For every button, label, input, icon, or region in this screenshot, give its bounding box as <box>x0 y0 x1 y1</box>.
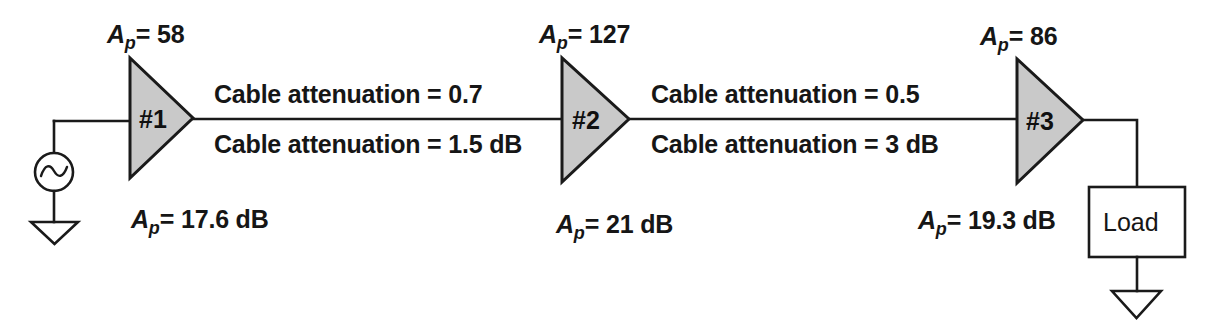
load-label: Load <box>1103 210 1159 235</box>
amp2-gain-linear-label: Ap= 127 <box>539 22 630 52</box>
amp1-gain-linear-label: Ap= 58 <box>107 22 184 52</box>
ground-icon-load <box>1112 291 1161 318</box>
amplifier-label-1: #1 <box>139 107 167 132</box>
amp2-gain-linear-subscript: p <box>557 33 568 53</box>
amplifier-label-3: #3 <box>1026 109 1054 134</box>
wire-amp3-to-load <box>1083 120 1137 187</box>
amplifier-label-2: #2 <box>572 108 600 133</box>
amp1-gain-linear-value: = 58 <box>136 20 185 48</box>
amp1-gain-db-label: Ap= 17.6 dB <box>131 207 269 237</box>
ground-icon-source <box>31 222 78 244</box>
amp1-gain-linear-subscript: p <box>125 33 136 53</box>
amp1-gain-db-value: = 17.6 dB <box>160 205 269 233</box>
amp3-gain-db-subscript: p <box>936 219 947 239</box>
cable1-attenuation-db-label: Cable attenuation = 1.5 dB <box>214 132 522 157</box>
amp3-gain-db-label: Ap= 19.3 dB <box>918 208 1056 238</box>
amp3-gain-linear-subscript: p <box>998 35 1009 55</box>
amp2-gain-db-symbol: A <box>556 210 574 238</box>
cable2-attenuation-db-label: Cable attenuation = 3 dB <box>651 132 939 157</box>
amp2-gain-db-value: = 21 dB <box>585 210 673 238</box>
amp1-gain-db-subscript: p <box>149 218 160 238</box>
amp3-gain-db-value: = 19.3 dB <box>947 206 1056 234</box>
amp2-gain-db-subscript: p <box>574 223 585 243</box>
amp3-gain-linear-symbol: A <box>980 22 998 50</box>
amp2-gain-linear-value: = 127 <box>568 20 630 48</box>
cable2-attenuation-linear-label: Cable attenuation = 0.5 <box>651 82 919 107</box>
amp1-gain-linear-symbol: A <box>107 20 125 48</box>
amp3-gain-db-symbol: A <box>918 206 936 234</box>
amp2-gain-linear-symbol: A <box>539 20 557 48</box>
amp3-gain-linear-value: = 86 <box>1009 22 1058 50</box>
amplifier-chain-diagram: Ap= 58 #1 Ap= 17.6 dB Cable attenuation … <box>0 0 1208 334</box>
amp1-gain-db-symbol: A <box>131 205 149 233</box>
amp2-gain-db-label: Ap= 21 dB <box>556 212 673 242</box>
amp3-gain-linear-label: Ap= 86 <box>980 24 1057 54</box>
cable1-attenuation-linear-label: Cable attenuation = 0.7 <box>214 82 482 107</box>
